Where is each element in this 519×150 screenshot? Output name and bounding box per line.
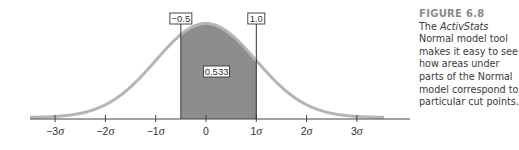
x-tick-label: −1σ: [147, 124, 166, 138]
caption-text: The ActivStats Normal model tool makes i…: [419, 21, 519, 109]
caption-italic: ActivStats: [440, 21, 488, 32]
x-tick-label: −3σ: [46, 124, 65, 138]
x-tick-label: −2σ: [96, 124, 115, 138]
x-tick-label: 2σ: [301, 124, 314, 138]
cut-point-label: 1.0: [250, 13, 263, 24]
figure-label: FIGURE 6.8: [419, 8, 485, 19]
figure-caption: FIGURE 6.8 The ActivStats Normal model t…: [419, 8, 519, 109]
x-tick-label: 1σ: [250, 124, 263, 138]
x-tick-label: 0: [203, 125, 209, 137]
cut-point-label: −0.5: [171, 13, 190, 24]
x-tick-label: 3σ: [351, 124, 364, 138]
normal-curve-chart: −3σ−2σ−1σ01σ2σ3σ −0.51.0 0.533: [0, 0, 410, 150]
area-value-label: 0.533: [204, 66, 230, 77]
svg-text:0.533: 0.533: [205, 66, 229, 77]
